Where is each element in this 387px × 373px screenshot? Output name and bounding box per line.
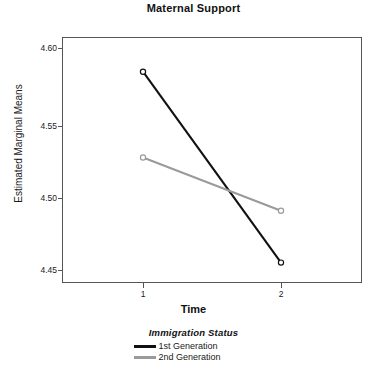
- legend-line-swatch-icon: [134, 345, 156, 348]
- y-tick-label: 4.60: [27, 43, 57, 53]
- x-tick-mark: [281, 283, 282, 288]
- y-tick-label: 4.50: [27, 193, 57, 203]
- x-tick-label: 1: [128, 289, 158, 299]
- legend-item-label: 2nd Generation: [159, 352, 221, 363]
- x-tick-mark: [143, 283, 144, 288]
- legend-line-swatch-icon: [134, 356, 156, 358]
- y-tick-mark: [58, 126, 63, 127]
- legend-title: Immigration Status: [0, 327, 387, 338]
- y-tick-mark: [58, 198, 63, 199]
- legend: Immigration Status 1st Generation2nd Gen…: [0, 327, 387, 363]
- legend-entries: 1st Generation2nd Generation: [0, 341, 387, 363]
- x-axis-title: Time: [0, 303, 387, 315]
- legend-item-1[interactable]: 1st Generation: [134, 341, 254, 352]
- chart-title: Maternal Support: [0, 2, 387, 14]
- y-tick-mark: [58, 270, 63, 271]
- plot-area: [62, 37, 362, 283]
- y-tick-mark: [58, 48, 63, 49]
- y-axis-title: Estimated Marginal Means: [13, 44, 24, 244]
- y-tick-label: 4.45: [27, 265, 57, 275]
- legend-item-2[interactable]: 2nd Generation: [134, 352, 254, 363]
- estimated-marginal-means-chart: Maternal Support Estimated Marginal Mean…: [0, 0, 387, 373]
- legend-item-label: 1st Generation: [159, 341, 218, 352]
- y-tick-label: 4.55: [27, 121, 57, 131]
- x-tick-label: 2: [266, 289, 296, 299]
